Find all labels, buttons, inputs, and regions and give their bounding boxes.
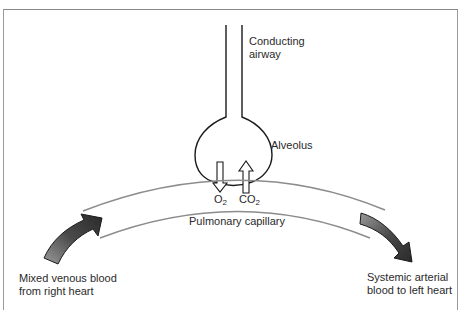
label-co2-sub: 2 bbox=[256, 198, 260, 207]
label-co2: CO2 bbox=[239, 193, 260, 209]
label-o2-sub: 2 bbox=[223, 198, 227, 207]
label-line: from right heart bbox=[19, 285, 117, 298]
label-o2-main: O bbox=[214, 193, 223, 205]
o2-diffusion-arrow-icon bbox=[213, 162, 227, 192]
label-line: blood to left heart bbox=[367, 284, 452, 297]
label-line: Systemic arterial bbox=[367, 271, 452, 284]
label-co2-main: CO bbox=[239, 193, 256, 205]
pulmonary-capillary-walls bbox=[83, 180, 385, 238]
venous-inflow-arrow-icon bbox=[44, 214, 102, 264]
label-mixed-venous-blood: Mixed venous blood from right heart bbox=[19, 272, 117, 298]
label-line: Conducting bbox=[249, 35, 305, 48]
label-systemic-arterial-blood: Systemic arterial blood to left heart bbox=[367, 271, 452, 297]
label-conducting-airway: Conducting airway bbox=[249, 35, 305, 61]
label-alveolus: Alveolus bbox=[271, 139, 313, 152]
label-line: airway bbox=[249, 48, 305, 61]
label-line: Mixed venous blood bbox=[19, 272, 117, 285]
co2-diffusion-arrow-icon bbox=[239, 161, 253, 193]
label-pulmonary-capillary: Pulmonary capillary bbox=[189, 215, 285, 228]
label-o2: O2 bbox=[214, 193, 227, 209]
diagram-canvas bbox=[0, 0, 463, 310]
